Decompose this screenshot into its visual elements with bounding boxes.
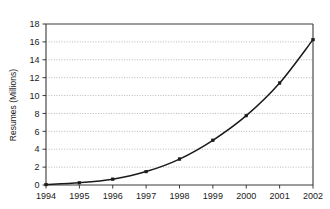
x-tick-label: 1997 — [136, 191, 156, 201]
y-tick-label: 8 — [34, 109, 39, 119]
series-markers — [45, 38, 315, 186]
y-tick-label: 10 — [29, 91, 39, 101]
y-tick-label: 18 — [29, 19, 39, 29]
x-tick-label: 2002 — [303, 191, 323, 201]
data-point-marker — [45, 183, 48, 186]
data-point-marker — [111, 178, 114, 181]
data-point-marker — [245, 114, 248, 117]
x-tick-label: 1998 — [169, 191, 189, 201]
y-tick-label: 6 — [34, 127, 39, 137]
data-point-marker — [312, 38, 315, 41]
x-tick-label: 2000 — [236, 191, 256, 201]
y-tick-label: 0 — [34, 180, 39, 190]
x-tick-label: 2001 — [270, 191, 290, 201]
line-chart: 024681012141618 199419951996199719981999… — [0, 0, 330, 209]
series-line-resumes — [46, 40, 313, 185]
x-tick-label: 1995 — [69, 191, 89, 201]
x-tick-label: 1994 — [36, 191, 56, 201]
data-point-marker — [212, 139, 215, 142]
x-axis-tick-labels: 199419951996199719981999200020012002 — [36, 191, 323, 201]
y-tick-label: 12 — [29, 73, 39, 83]
data-point-marker — [78, 181, 81, 184]
chart-container: 024681012141618 199419951996199719981999… — [0, 0, 330, 209]
y-tick-label: 16 — [29, 37, 39, 47]
data-point-marker — [145, 170, 148, 173]
y-tick-label: 14 — [29, 55, 39, 65]
gridlines — [46, 42, 313, 167]
y-tick-label: 4 — [34, 144, 39, 154]
x-tick-label: 1999 — [203, 191, 223, 201]
y-tick-label: 2 — [34, 162, 39, 172]
data-point-marker — [178, 158, 181, 161]
data-point-marker — [278, 82, 281, 85]
x-tick-label: 1996 — [103, 191, 123, 201]
y-axis-tick-labels: 024681012141618 — [29, 19, 39, 190]
plot-frame — [46, 24, 313, 185]
y-axis-title: Resumes (Millions) — [8, 69, 18, 141]
